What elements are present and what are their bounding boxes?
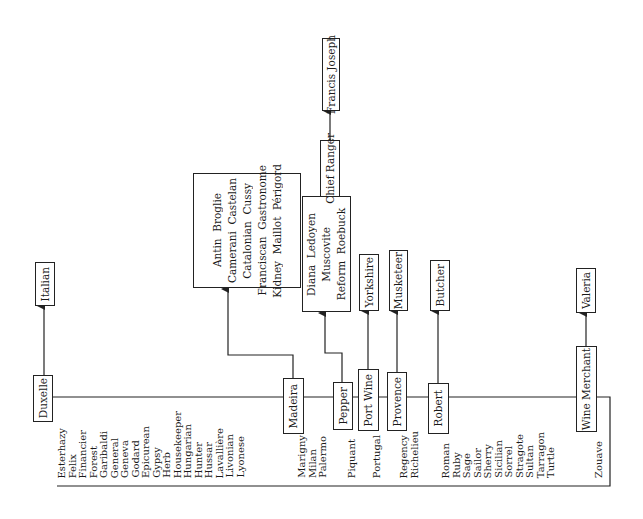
child-line: Antin Broglie — [211, 193, 224, 267]
node-label: Francis Joseph — [326, 35, 337, 114]
sauce-name: Piquant — [347, 439, 358, 478]
child-line: Catalonian Cussy — [241, 183, 254, 279]
child-line: Camerani Castelan — [226, 178, 239, 283]
sauce-list-group6: Roman Ruby Sage Sailor Sherry Sicilian S… — [441, 408, 557, 478]
sauce-name: Hussar — [204, 442, 215, 478]
sauce-list-group5: Regency Richelieu — [399, 408, 420, 478]
node-label: Valeria — [581, 272, 592, 309]
child-line: Muscovite — [320, 227, 333, 282]
sauce-name: Roman — [441, 443, 452, 478]
sauce-name: Epicurean — [141, 426, 152, 478]
node-pepper-children: Diana Ledoyen Muscovite Reform Roebuck — [302, 196, 351, 312]
node-label: Yorkshire — [364, 257, 375, 307]
node-italian: Italian — [35, 262, 55, 306]
node-label: Duxelle — [38, 378, 49, 418]
node-label: Butcher — [435, 264, 446, 307]
child-line: Kidney Maillot Périgord — [271, 164, 284, 298]
node-valeria: Valeria — [576, 268, 596, 313]
node-label: Musketeer — [393, 252, 404, 309]
child-line: Franciscan Gastronome — [256, 165, 269, 295]
child-line: Diana Ledoyen — [305, 213, 318, 296]
sauce-name: Herb — [162, 452, 173, 478]
sauce-name: Financier — [78, 430, 89, 478]
node-chief-ranger: Chief Ranger — [320, 140, 340, 197]
sauce-name: Marigny — [297, 435, 308, 478]
node-musketeer: Musketeer — [389, 250, 408, 311]
sauce-name: Sherry — [483, 444, 494, 478]
sauce-list-group4: Portugal — [372, 408, 383, 478]
sauce-name: Portugal — [372, 435, 383, 478]
sauce-name: Lyonese — [236, 436, 247, 478]
sauce-name: Sage — [462, 453, 473, 478]
node-madeira-children: Antin Broglie Camerani Castelan Cataloni… — [193, 173, 301, 288]
sauce-name: Livonian — [225, 434, 236, 478]
sauce-list-group7: Zouave — [594, 408, 605, 478]
sauce-name: Sorrel — [504, 446, 515, 478]
sauce-name: Richelieu — [410, 431, 421, 478]
sauce-name: Zouave — [594, 441, 605, 478]
sauce-list-group1: Esterhazy Felix Financier Forest Garibal… — [57, 408, 246, 478]
sauce-name: Garibaldi — [99, 431, 110, 478]
node-yorkshire: Yorkshire — [359, 254, 379, 311]
sauce-name: Sultan — [525, 445, 536, 478]
sauce-name: Esterhazy — [57, 428, 68, 478]
node-butcher: Butcher — [430, 260, 450, 311]
sauce-name: Regency — [399, 435, 410, 478]
node-francis-joseph: Francis Joseph — [322, 38, 340, 111]
node-duxelle: Duxelle — [33, 375, 53, 422]
sauce-name: Palermo — [318, 436, 329, 478]
sauce-name: Geneva — [120, 440, 131, 478]
child-line: Reform Roebuck — [335, 208, 348, 300]
sauce-list-group2: Marigny Milan Palermo — [297, 408, 329, 478]
sauce-name: Turtle — [546, 447, 557, 478]
node-label: Italian — [40, 267, 51, 301]
sauce-name: Hungarian — [183, 424, 194, 478]
node-label: Chief Ranger — [325, 133, 336, 204]
node-label: Wine Merchant — [581, 348, 592, 430]
sauce-list-group3: Piquant — [347, 408, 358, 478]
